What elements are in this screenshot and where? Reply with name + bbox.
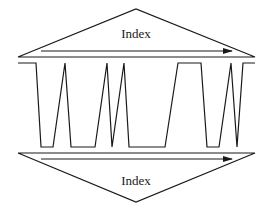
waveform-line (18, 63, 255, 147)
index-diagram: Index Index (0, 0, 270, 211)
top-index-label: Index (121, 26, 151, 41)
diagram-canvas: Index Index (0, 0, 270, 211)
bottom-index-label: Index (121, 173, 151, 188)
